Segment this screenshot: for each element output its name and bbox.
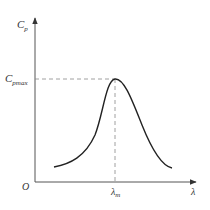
cp-lambda-diagram: Cp Cpmax O λm λ xyxy=(0,0,210,210)
y-axis-label: Cp xyxy=(17,18,28,33)
origin-label: O xyxy=(22,181,29,192)
cp-curve xyxy=(54,79,172,168)
cpmax-label: Cpmax xyxy=(5,72,28,87)
x-axis-label: λ xyxy=(190,186,196,197)
lambda-m-label: λm xyxy=(110,186,120,199)
